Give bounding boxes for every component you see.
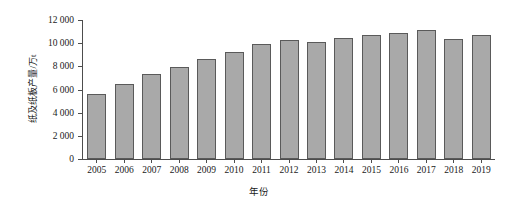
x-tick-slot [248, 159, 275, 163]
bar[interactable] [225, 52, 244, 159]
x-tick-slot [220, 159, 247, 163]
bar-slot [110, 20, 137, 159]
x-tick-slot [110, 159, 137, 163]
x-tick-mark [179, 159, 180, 163]
bar[interactable] [334, 38, 353, 159]
y-tick-label: 10 000 [48, 38, 74, 48]
plot-area [82, 20, 495, 159]
y-tick-mark [78, 136, 82, 137]
y-tick-mark [78, 20, 82, 21]
bar-slot [468, 20, 495, 159]
bar[interactable] [142, 74, 161, 159]
y-tick-label: 4 000 [53, 108, 74, 118]
x-tick-mark [343, 159, 344, 163]
bar-slot [165, 20, 192, 159]
x-tick-slot [303, 159, 330, 163]
x-tick-mark [151, 159, 152, 163]
x-tick-label: 2007 [138, 165, 165, 179]
bar-slot [358, 20, 385, 159]
x-tick-label: 2010 [220, 165, 247, 179]
y-axis-tick-labels: 02 0004 0006 0008 00010 00012 000 [0, 20, 80, 159]
x-tick-slot [330, 159, 357, 163]
bar[interactable] [115, 84, 134, 159]
x-tick-label: 2017 [413, 165, 440, 179]
x-tick-mark [234, 159, 235, 163]
x-axis-title: 年份 [0, 184, 517, 198]
y-tick-label: 6 000 [53, 85, 74, 95]
bar[interactable] [280, 40, 299, 159]
x-tick-label: 2008 [165, 165, 192, 179]
bar[interactable] [170, 67, 189, 159]
bar-slot [330, 20, 357, 159]
bar[interactable] [389, 33, 408, 159]
bar[interactable] [444, 39, 463, 159]
x-tick-label: 2014 [330, 165, 357, 179]
x-tick-slot [83, 159, 110, 163]
x-tick-label: 2005 [83, 165, 110, 179]
x-tick-label: 2019 [468, 165, 495, 179]
x-tick-mark [96, 159, 97, 163]
x-tick-slot [275, 159, 302, 163]
x-tick-mark [453, 159, 454, 163]
y-tick-label: 12 000 [48, 15, 74, 25]
bar-slot [248, 20, 275, 159]
x-tick-slot [413, 159, 440, 163]
x-tick-mark [206, 159, 207, 163]
bar-slot [303, 20, 330, 159]
x-tick-label: 2015 [358, 165, 385, 179]
y-tick-mark [78, 90, 82, 91]
bar-series [83, 20, 495, 159]
y-tick-mark [78, 43, 82, 44]
bar-slot [138, 20, 165, 159]
x-tick-mark [371, 159, 372, 163]
x-tick-slot [165, 159, 192, 163]
x-tick-slot [358, 159, 385, 163]
x-tick-slot [440, 159, 467, 163]
x-tick-mark [289, 159, 290, 163]
bar-slot [193, 20, 220, 159]
x-tick-mark [261, 159, 262, 163]
bar[interactable] [417, 30, 436, 159]
y-tick-mark [78, 113, 82, 114]
x-tick-label: 2011 [248, 165, 275, 179]
x-tick-mark [124, 159, 125, 163]
bar[interactable] [252, 44, 271, 159]
x-tick-mark [426, 159, 427, 163]
x-tick-label: 2016 [385, 165, 412, 179]
x-tick-slot [193, 159, 220, 163]
y-tick-mark [78, 66, 82, 67]
bar-slot [413, 20, 440, 159]
x-tick-slot [468, 159, 495, 163]
bar-slot [275, 20, 302, 159]
bar[interactable] [472, 35, 491, 159]
bar-slot [385, 20, 412, 159]
bar[interactable] [362, 35, 381, 159]
x-axis-ticks [83, 159, 495, 163]
bar[interactable] [197, 59, 216, 159]
bar-slot [83, 20, 110, 159]
x-tick-label: 2012 [275, 165, 302, 179]
x-tick-mark [481, 159, 482, 163]
x-tick-mark [316, 159, 317, 163]
y-tick-label: 2 000 [53, 131, 74, 141]
bar-chart-figure: 纸及纸板产量/万t 02 0004 0006 0008 00010 00012 … [0, 0, 517, 211]
x-tick-mark [398, 159, 399, 163]
x-tick-label: 2006 [110, 165, 137, 179]
x-tick-label: 2018 [440, 165, 467, 179]
bar[interactable] [87, 94, 106, 159]
x-tick-label: 2009 [193, 165, 220, 179]
x-axis-tick-labels: 2005200620072008200920102011201220132014… [83, 165, 495, 179]
x-tick-slot [138, 159, 165, 163]
y-tick-label: 0 [69, 154, 74, 164]
bar-slot [220, 20, 247, 159]
x-tick-label: 2013 [303, 165, 330, 179]
bar-slot [440, 20, 467, 159]
y-tick-label: 8 000 [53, 61, 74, 71]
y-tick-mark [78, 159, 82, 160]
bar[interactable] [307, 42, 326, 159]
x-tick-slot [385, 159, 412, 163]
